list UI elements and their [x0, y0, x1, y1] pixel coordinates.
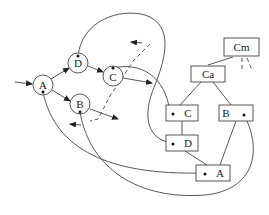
node-label: A	[39, 79, 47, 91]
pointer-dot	[172, 113, 175, 116]
edge-b-a	[220, 121, 236, 165]
diagram-canvas: A D C B Cm Ca C B D A	[0, 0, 269, 215]
pointer-dot	[42, 91, 45, 94]
circle-node-b: B	[70, 94, 90, 114]
pointer-dot	[77, 55, 80, 58]
pointer-dot	[112, 67, 115, 70]
node-label: D	[74, 57, 82, 69]
edge-cut-top	[131, 42, 142, 43]
edge-cm-ca	[208, 57, 233, 65]
pointer-dot	[79, 111, 82, 114]
box-node-a: A	[196, 165, 230, 181]
pointer-dot	[172, 143, 175, 146]
node-label: Cm	[234, 41, 250, 53]
curve-a-to-boxA	[43, 92, 201, 173]
box-node-d: D	[166, 135, 198, 151]
node-label: C	[109, 71, 116, 83]
edge-b-out	[90, 109, 118, 119]
node-label: D	[184, 137, 192, 149]
edge-input-a	[15, 82, 32, 84]
node-label: B	[222, 107, 229, 119]
edge-a-d	[51, 68, 69, 79]
curve-b-to-boxB	[80, 112, 253, 196]
box-node-ca: Ca	[191, 66, 225, 82]
node-label: C	[184, 107, 191, 119]
circle-node-c: C	[103, 66, 123, 86]
node-label: Ca	[202, 68, 214, 80]
box-node-c: C	[166, 105, 198, 121]
pointer-dot	[243, 114, 246, 117]
edge-c-out	[123, 78, 152, 83]
node-label: A	[216, 167, 224, 179]
box-node-cm: Cm	[224, 38, 259, 56]
edge-cut-bottom	[70, 124, 81, 125]
edge-ca-b	[213, 82, 231, 105]
node-label: B	[76, 98, 83, 110]
edge-a-b	[52, 90, 70, 101]
dashed-stub-2	[247, 58, 252, 70]
edge-d-a	[185, 151, 207, 165]
box-node-b: B	[219, 105, 253, 121]
circle-node-a: A	[33, 75, 53, 95]
circle-node-d: D	[68, 53, 88, 73]
edge-d-c	[88, 66, 103, 72]
pointer-dot	[204, 173, 207, 176]
edge-ca-c	[180, 82, 201, 105]
